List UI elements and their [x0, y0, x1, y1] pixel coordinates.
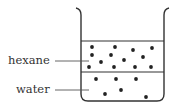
- hexane-particle: [149, 65, 153, 69]
- hexane-particle: [112, 65, 116, 69]
- hexane-particle: [122, 58, 126, 62]
- hexane-label: hexane: [8, 55, 50, 67]
- beaker-outline: [76, 8, 169, 101]
- water-particle: [114, 77, 118, 81]
- hexane-particle: [150, 46, 154, 50]
- hexane-particle: [90, 53, 94, 57]
- water-particle: [103, 92, 107, 96]
- water-particle: [134, 77, 138, 81]
- water-particle: [119, 88, 123, 92]
- hexane-particle: [133, 65, 137, 69]
- hexane-particle: [141, 55, 145, 59]
- hexane-particle: [131, 48, 135, 52]
- water-label: water: [16, 84, 50, 96]
- hexane-particle: [87, 65, 91, 69]
- hexane-particle: [99, 60, 103, 64]
- hexane-particle: [90, 45, 94, 49]
- hexane-particle: [113, 45, 117, 49]
- hexane-particle: [109, 53, 113, 57]
- water-particle: [94, 77, 98, 81]
- water-particle: [144, 95, 148, 99]
